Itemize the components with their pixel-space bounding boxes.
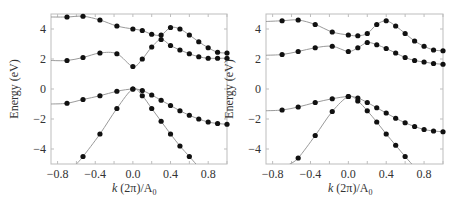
data-point-marker xyxy=(374,42,379,47)
data-point-marker xyxy=(403,154,408,159)
data-point-marker xyxy=(440,62,445,67)
data-point-marker xyxy=(440,129,445,134)
x-tick-label: 0.4 xyxy=(163,167,178,181)
data-point-marker xyxy=(149,106,154,111)
data-point-marker xyxy=(97,17,102,22)
data-point-marker xyxy=(97,131,102,136)
data-point-marker xyxy=(296,17,301,22)
data-point-marker xyxy=(130,86,135,91)
y-tick-label: 0 xyxy=(40,82,46,96)
band-1-curve xyxy=(51,16,227,53)
data-point-marker xyxy=(196,39,201,44)
data-point-marker xyxy=(140,93,145,98)
data-point-marker xyxy=(330,44,335,49)
data-point-marker xyxy=(313,133,318,138)
right-xlabel: k (2π)/A0 xyxy=(328,181,372,197)
data-point-marker xyxy=(130,64,135,69)
data-point-marker xyxy=(64,101,69,106)
data-point-marker xyxy=(114,51,119,56)
data-point-marker xyxy=(384,18,389,23)
band-4-curve xyxy=(290,96,412,164)
data-point-marker xyxy=(149,32,154,37)
data-point-marker xyxy=(80,97,85,102)
data-point-marker xyxy=(159,37,164,42)
data-point-marker xyxy=(412,58,417,63)
data-point-marker xyxy=(114,89,119,94)
data-point-marker xyxy=(97,50,102,55)
data-point-marker xyxy=(168,25,173,30)
data-point-marker xyxy=(97,93,102,98)
data-point-marker xyxy=(279,52,284,57)
data-point-marker xyxy=(215,121,220,126)
data-point-marker xyxy=(279,18,284,23)
data-point-marker xyxy=(206,45,211,50)
data-point-marker xyxy=(168,131,173,136)
x-tick-label: 0.4 xyxy=(379,167,394,181)
data-point-marker xyxy=(177,26,182,31)
data-point-marker xyxy=(412,38,417,43)
x-tick-label: −0.8 xyxy=(47,167,69,181)
data-point-marker xyxy=(330,109,335,114)
x-tick-label: 0.0 xyxy=(125,167,140,181)
data-point-marker xyxy=(393,23,398,28)
right-panel: −0.8−0.40.00.40.8420−2−4Energy (eV) xyxy=(222,14,446,181)
left-panel: −0.8−0.40.00.40.8420−2−4Energy (eV) xyxy=(7,14,230,181)
data-point-marker xyxy=(393,143,398,148)
data-point-marker xyxy=(346,49,351,54)
data-point-marker xyxy=(403,55,408,60)
plot-frame xyxy=(51,14,227,164)
data-point-marker xyxy=(330,29,335,34)
data-point-marker xyxy=(384,131,389,136)
data-point-marker xyxy=(206,56,211,61)
data-point-marker xyxy=(346,32,351,37)
data-point-marker xyxy=(421,44,426,49)
data-point-marker xyxy=(365,108,370,113)
data-point-marker xyxy=(206,119,211,124)
data-point-marker xyxy=(140,28,145,33)
band-4-curve xyxy=(76,89,196,164)
data-point-marker xyxy=(440,48,445,53)
data-point-marker xyxy=(412,124,417,129)
data-point-marker xyxy=(421,59,426,64)
y-tick-label: 2 xyxy=(255,52,261,66)
data-point-marker xyxy=(403,120,408,125)
data-point-marker xyxy=(296,155,301,160)
data-point-marker xyxy=(279,107,284,112)
data-point-marker xyxy=(374,119,379,124)
data-point-marker xyxy=(365,100,370,105)
y-axis-label: Energy (eV) xyxy=(7,59,21,118)
y-tick-label: 4 xyxy=(255,22,261,36)
data-point-marker xyxy=(196,54,201,59)
x-tick-label: −0.4 xyxy=(84,167,106,181)
data-point-marker xyxy=(393,50,398,55)
data-point-marker xyxy=(140,88,145,93)
data-point-marker xyxy=(296,49,301,54)
data-point-marker xyxy=(215,50,220,55)
data-point-marker xyxy=(384,110,389,115)
data-point-marker xyxy=(80,154,85,159)
data-point-marker xyxy=(215,56,220,61)
data-point-marker xyxy=(114,23,119,28)
data-point-marker xyxy=(177,108,182,113)
data-point-marker xyxy=(224,122,229,127)
y-tick-label: −2 xyxy=(248,112,261,126)
data-point-marker xyxy=(313,22,318,27)
y-tick-label: 4 xyxy=(40,22,46,36)
left-xlabel: k (2π)/A0 xyxy=(112,181,156,197)
y-axis-label: Energy (eV) xyxy=(222,59,236,118)
band-1-curve xyxy=(266,20,443,51)
data-point-marker xyxy=(224,50,229,55)
data-point-marker xyxy=(313,45,318,50)
data-point-marker xyxy=(187,51,192,56)
data-point-marker xyxy=(296,104,301,109)
y-tick-label: 0 xyxy=(255,82,261,96)
data-point-marker xyxy=(64,14,69,19)
data-point-marker xyxy=(313,100,318,105)
data-point-marker xyxy=(196,116,201,121)
data-point-marker xyxy=(64,58,69,63)
data-point-marker xyxy=(168,43,173,48)
data-point-marker xyxy=(346,94,351,99)
data-point-marker xyxy=(431,47,436,52)
y-tick-label: −4 xyxy=(33,142,46,156)
data-point-marker xyxy=(421,127,426,132)
